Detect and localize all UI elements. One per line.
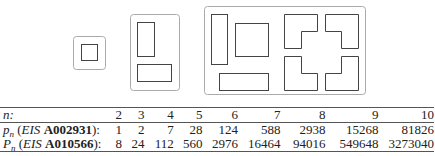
col-header: 3 [122,108,145,123]
table-cell: 94016 [280,137,325,152]
table-cell: 16464 [238,137,280,152]
group-box-n2 [74,37,106,70]
horizontal-rectangle-shape [220,74,269,91]
table-cell: 588 [238,123,280,138]
polygon-figure [0,0,435,100]
row-label: pn (EIS A002931): [0,123,107,138]
n-label: n: [0,108,107,123]
table-cell: 112 [144,137,173,152]
table-cell: 560 [174,137,203,152]
table-cell: 2 [122,123,145,138]
L-tromino-shape [285,15,318,49]
L-tromino-shape [285,57,318,91]
col-header: 6 [202,108,238,123]
table-cell: 124 [202,123,238,138]
col-header: 5 [174,108,203,123]
header-row: n: 2 3 4 5 6 7 8 9 10 [0,108,434,123]
vertical-rectangle-shape [138,23,155,57]
table-row: Pn (EIS A010566): 8 24 112 560 2976 1646… [0,137,434,152]
table-cell: 1 [107,123,122,138]
col-header: 4 [144,108,173,123]
table-cell: 28 [174,123,203,138]
col-header: 9 [326,108,379,123]
table-cell: 549648 [326,137,379,152]
table-cell: 2976 [202,137,238,152]
horizontal-rectangle-shape [138,65,172,82]
table-cell: 7 [144,123,173,138]
L-tromino-shape [326,15,359,49]
table-cell: 2938 [280,123,325,138]
sequence-table: n: 2 3 4 5 6 7 8 9 10 pn (EIS A002931): … [0,107,435,152]
col-header: 8 [280,108,325,123]
L-tromino-shape [326,57,359,91]
col-header: 7 [238,108,280,123]
square-shape [82,45,98,61]
table-cell: 15268 [326,123,379,138]
table-cell: 81826 [378,123,434,138]
row-label: Pn (EIS A010566): [0,137,107,152]
col-header: 2 [107,108,122,123]
table-cell: 8 [107,137,122,152]
table-cell: 3273040 [378,137,434,152]
table-cell: 24 [122,137,145,152]
vertical-rectangle-shape [212,15,228,65]
col-header: 10 [378,108,434,123]
square-shape [236,24,269,57]
table-row: pn (EIS A002931): 1 2 7 28 124 588 2938 … [0,123,434,138]
